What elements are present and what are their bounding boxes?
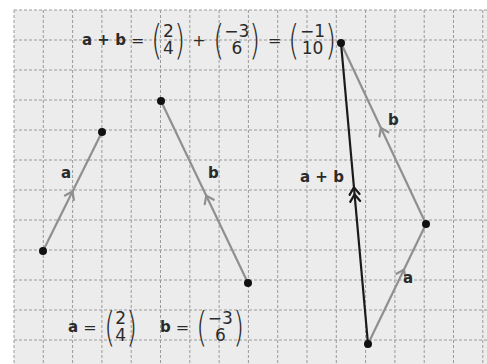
left-paren: ( <box>289 20 300 60</box>
definition-b: b = ( −36 ) <box>160 307 246 347</box>
right-paren: ) <box>233 307 244 347</box>
left-paren: ( <box>152 20 163 60</box>
equals-sign: = <box>268 31 281 50</box>
equals-sign: = <box>131 31 144 50</box>
left-paren: ( <box>196 307 207 347</box>
right-paren: ) <box>174 20 185 60</box>
def-b-name: b <box>160 318 171 336</box>
vector-endpoint <box>422 220 430 228</box>
label-a-right: a <box>403 271 413 286</box>
vector-endpoint <box>39 247 47 255</box>
vector-endpoint <box>98 128 106 136</box>
vector-endpoint <box>364 340 372 348</box>
column-vector-a: ( 24 ) <box>102 307 140 347</box>
label-a-left: a <box>61 166 71 181</box>
definition-a: a = ( 24 ) <box>68 307 140 347</box>
label-b-middle: b <box>208 166 219 181</box>
a-y: 4 <box>115 327 126 344</box>
column-vector-a: ( 24 ) <box>149 20 187 60</box>
label-a-plus-b: a + b <box>300 170 344 185</box>
b-y: 6 <box>231 40 242 57</box>
column-vector-b: ( −36 ) <box>194 307 246 347</box>
a-y: 4 <box>163 40 174 57</box>
right-paren: ) <box>325 20 336 60</box>
vector-endpoint <box>244 279 252 287</box>
label-b-right: b <box>388 113 399 128</box>
left-paren: ( <box>213 20 224 60</box>
equals-sign: = <box>176 318 189 337</box>
sum-y: 10 <box>302 40 324 57</box>
right-paren: ) <box>126 307 137 347</box>
column-vector-b: ( −36 ) <box>211 20 263 60</box>
plus-sign: + <box>192 31 205 50</box>
sum-equation: a + b = ( 24 ) + ( −36 ) = ( −110 ) <box>82 20 339 60</box>
b-y: 6 <box>215 327 226 344</box>
def-a-name: a <box>68 318 78 336</box>
equals-sign: = <box>83 318 96 337</box>
column-vector-sum: ( −110 ) <box>286 20 338 60</box>
vector-endpoint <box>157 97 165 105</box>
right-paren: ) <box>250 20 261 60</box>
equation-lhs: a + b <box>82 31 126 49</box>
left-paren: ( <box>104 307 115 347</box>
